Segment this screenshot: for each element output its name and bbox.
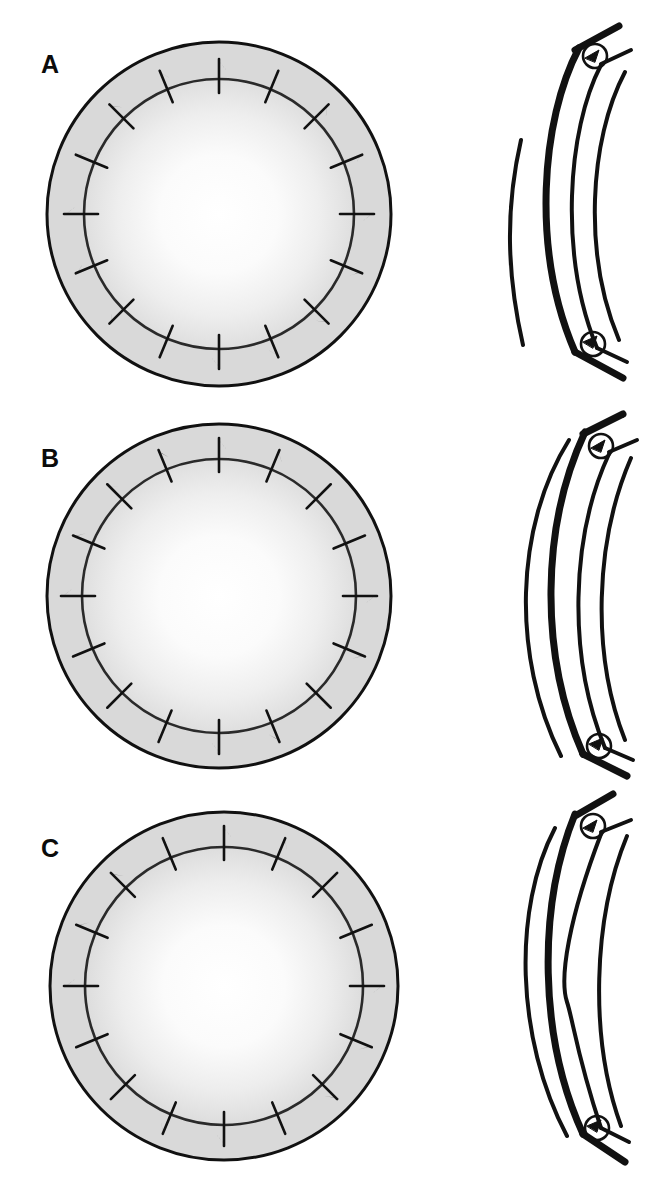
suture-tail-superior-a bbox=[575, 26, 619, 50]
graft-enface-view-c bbox=[0, 788, 440, 1184]
host-anterior-arc-a bbox=[510, 140, 523, 345]
suture-tail-superior-c bbox=[575, 794, 613, 816]
graft-posterior-surface-c bbox=[564, 834, 601, 1128]
knot-barb-superior-c bbox=[583, 820, 597, 832]
graft-enface-view-b bbox=[0, 396, 440, 792]
graft-cross-section-view-c bbox=[497, 788, 659, 1184]
panel-c: C bbox=[0, 788, 659, 1184]
graft-tail-inferior-a bbox=[597, 348, 627, 362]
host-posterior-arc-b bbox=[602, 458, 631, 740]
panel-b: B bbox=[0, 396, 659, 792]
suture-tail-superior-b bbox=[583, 414, 623, 434]
panel-a: A bbox=[0, 0, 659, 400]
graft-cross-section-view-a bbox=[497, 0, 659, 400]
knot-barb-inferior-b bbox=[589, 738, 603, 750]
graft-cross-section-view-b bbox=[497, 396, 659, 792]
figure-corneal-graft-sutures: A bbox=[0, 0, 659, 1184]
graft-anterior-surface-a bbox=[546, 48, 579, 352]
graft-posterior-surface-b bbox=[578, 454, 609, 748]
host-posterior-arc-a bbox=[595, 72, 625, 340]
graft-enface-view-a bbox=[0, 0, 440, 400]
knot-barb-inferior-c bbox=[587, 1120, 601, 1132]
host-posterior-arc-c bbox=[599, 836, 627, 1126]
knot-barb-superior-b bbox=[591, 440, 605, 452]
knot-barb-superior-a bbox=[585, 50, 599, 62]
